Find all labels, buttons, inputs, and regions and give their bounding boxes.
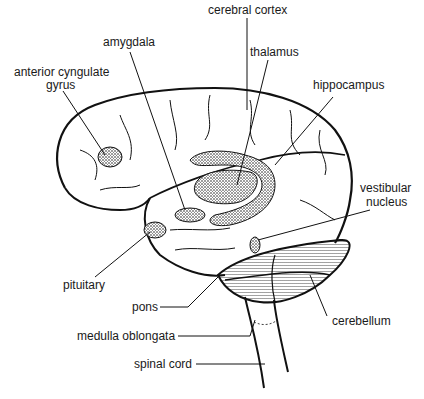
label-pons: pons [132, 301, 158, 314]
brainstem-shape [245, 297, 288, 388]
label-vestibular: vestibular [360, 182, 411, 195]
label-pituitary: pituitary [63, 279, 105, 292]
thalamus-shape [194, 170, 257, 204]
label-nucleus: nucleus [366, 196, 407, 209]
label-spinal-cord: spinal cord [134, 358, 192, 371]
label-medulla-oblongata: medulla oblongata [77, 330, 175, 343]
pituitary-shape [144, 222, 166, 238]
label-gyrus: gyrus [46, 79, 75, 92]
label-thalamus: thalamus [250, 46, 299, 59]
label-cerebral-cortex: cerebral cortex [208, 4, 287, 17]
cerebellum-shape [218, 240, 350, 303]
amygdala-shape [175, 208, 205, 222]
label-hippocampus: hippocampus [313, 79, 384, 92]
brain-diagram [0, 0, 424, 399]
label-cerebellum: cerebellum [332, 315, 391, 328]
label-amygdala: amygdala [103, 36, 155, 49]
